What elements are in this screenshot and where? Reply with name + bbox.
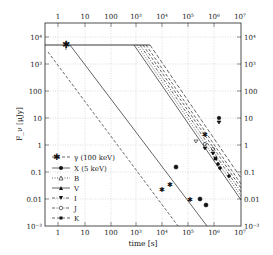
svg-text:✱: ✱ [202,131,208,139]
svg-text:0.01: 0.01 [26,196,42,204]
svg-text:1: 1 [56,13,60,21]
svg-text:10⁵: 10⁵ [182,13,194,21]
svg-text:γ (100 keV): γ (100 keV) [74,154,115,162]
svg-text:K: K [74,215,80,223]
svg-text:✱: ✱ [167,181,173,189]
svg-text:10⁴: 10⁴ [156,13,168,21]
legend-item-b: B [52,175,79,183]
svg-text:10³: 10³ [30,61,42,69]
legend-item-gamma: ✱ γ (100 keV) [52,152,115,162]
svg-text:J: J [73,205,77,213]
svg-text:100: 100 [104,229,117,237]
svg-text:✱: ✱ [159,186,165,194]
svg-text:100: 100 [29,88,42,96]
legend: ✱ γ (100 keV) X (5 keV) B V I J [52,152,115,223]
legend-item-j: J [52,205,77,213]
svg-text:0.01: 0.01 [244,196,260,204]
legend-item-v: V [52,185,80,193]
svg-text:0.1: 0.1 [31,169,42,177]
svg-text:1: 1 [38,142,42,150]
svg-text:100: 100 [244,88,257,96]
svg-text:10⁴: 10⁴ [30,34,42,42]
svg-text:10: 10 [33,115,42,123]
svg-text:0.1: 0.1 [244,169,255,177]
left-axis-labels: 10⁻³ 0.01 0.1 1 10 100 10³ 10⁴ [26,34,42,231]
bottom-axis-labels: 1 10 100 10³ 10⁴ 10⁵ 10⁶ 10⁷ [56,229,246,237]
y-axis-label: F_ν [μJy] [15,107,24,141]
svg-text:10⁷: 10⁷ [234,13,246,21]
svg-text:10⁻³: 10⁻³ [27,223,43,231]
chart: 1 10 100 10³ 10⁴ 10⁵ 10⁶ 10⁷ 1 10 100 10… [0,0,273,255]
svg-text:V: V [73,185,80,193]
svg-text:1: 1 [244,142,248,150]
svg-text:I: I [74,195,77,203]
svg-text:✱: ✱ [53,152,61,162]
svg-text:10⁴: 10⁴ [244,34,256,42]
legend-item-k: K [52,215,80,223]
svg-text:100: 100 [104,13,117,21]
svg-text:B: B [74,175,79,183]
x-axis-label: time [s] [128,239,157,248]
svg-text:10⁻³: 10⁻³ [244,223,260,231]
svg-text:10⁶: 10⁶ [208,229,220,237]
svg-text:10⁶: 10⁶ [208,13,220,21]
top-axis-labels: 1 10 100 10³ 10⁴ 10⁵ 10⁶ 10⁷ [56,13,246,21]
svg-text:10³: 10³ [244,61,256,69]
svg-text:1: 1 [56,229,60,237]
svg-text:✱: ✱ [62,39,70,50]
svg-text:10: 10 [81,229,90,237]
svg-text:10⁴: 10⁴ [156,229,168,237]
svg-text:10³: 10³ [130,13,142,21]
svg-text:✱: ✱ [187,196,193,204]
svg-text:10³: 10³ [130,229,142,237]
right-axis-labels: 10⁻³ 0.01 0.1 1 10 100 10³ 10⁴ [244,34,260,231]
svg-text:10⁵: 10⁵ [182,229,194,237]
svg-text:10: 10 [81,13,90,21]
svg-text:10: 10 [244,115,253,123]
svg-text:X (5 keV): X (5 keV) [74,165,107,173]
gamma-point: ✱ [62,39,70,50]
